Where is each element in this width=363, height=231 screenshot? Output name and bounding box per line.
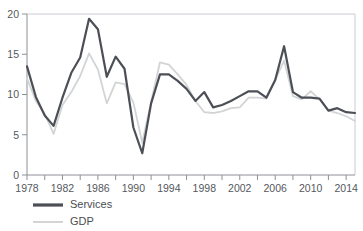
line-chart: 05101520 1978198219861990199419982002200… [0,0,363,231]
x-tick-label: 2010 [299,182,323,194]
y-tick-label: 10 [7,88,19,100]
x-axis-ticks: 1978198219861990199419982002200620102014 [15,175,358,194]
y-tick-label: 5 [13,129,19,141]
y-tick-label: 0 [13,169,19,181]
x-tick-label: 2006 [264,182,288,194]
series-line-services [27,19,355,153]
chart-legend: ServicesGDP [33,198,113,227]
x-tick-label: 1986 [86,182,110,194]
x-tick-label: 1998 [193,182,217,194]
x-tick-label: 1994 [157,182,181,194]
y-tick-label: 20 [7,8,19,20]
x-tick-label: 2002 [228,182,252,194]
legend-label-gdp: GDP [70,215,94,227]
y-tick-label: 15 [7,48,19,60]
x-tick-label: 1982 [51,182,75,194]
series-layer [27,19,355,153]
x-tick-label: 1978 [15,182,39,194]
chart-canvas: 05101520 1978198219861990199419982002200… [0,0,363,231]
legend-label-services: Services [70,198,113,210]
y-axis-ticks: 05101520 [7,8,27,181]
x-tick-label: 2014 [334,182,358,194]
x-tick-label: 1990 [122,182,146,194]
